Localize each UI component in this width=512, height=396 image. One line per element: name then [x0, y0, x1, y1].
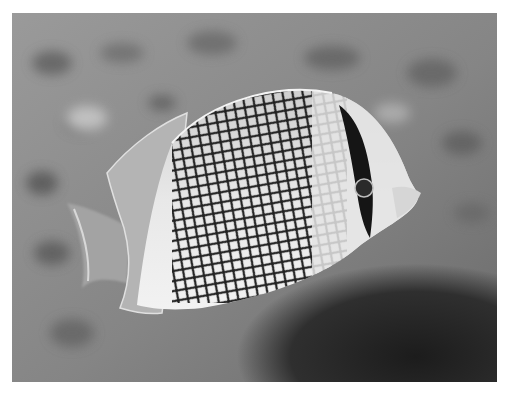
fish-photo — [12, 13, 497, 382]
fish-illustration — [12, 13, 497, 382]
fish-eye — [355, 179, 373, 197]
